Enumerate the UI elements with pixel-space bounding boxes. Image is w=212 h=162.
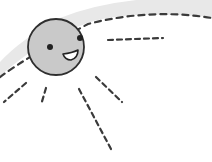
ray-down-right — [96, 77, 122, 102]
ray-down-left — [41, 88, 46, 105]
ray-right — [108, 38, 163, 40]
left-eye-icon — [47, 44, 53, 50]
sun-body — [28, 19, 84, 75]
ray-left-lower — [4, 83, 26, 102]
ray-down — [79, 89, 111, 149]
sun-face-icon — [0, 0, 212, 162]
sun-illustration — [0, 0, 212, 162]
right-eye-icon — [77, 35, 83, 41]
